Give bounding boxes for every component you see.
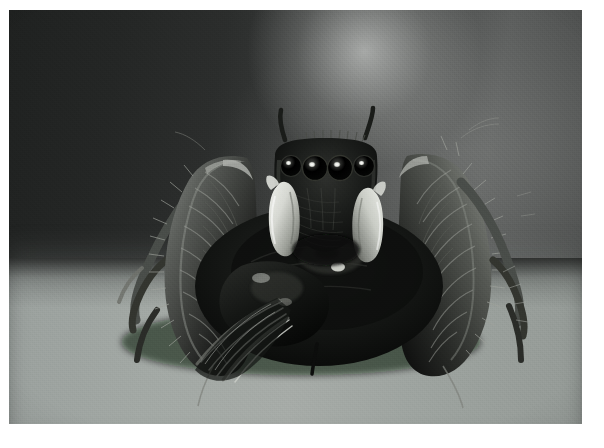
photograph: Black-and-white close-up photograph of a… xyxy=(9,10,582,424)
eye-anterior-median-right xyxy=(328,156,353,181)
jumping-spider xyxy=(9,10,582,424)
photo-title: Jumping spider facing camera with captur… xyxy=(0,0,1,1)
eye-anterior-median-left xyxy=(303,156,328,181)
eye-anterior-lateral-right xyxy=(354,156,375,177)
carapace-tufts xyxy=(280,108,373,140)
photo-page: Black-and-white close-up photograph of a… xyxy=(0,0,604,448)
eye-anterior-lateral-left xyxy=(281,156,302,177)
chelicerae-shadow xyxy=(292,234,360,266)
